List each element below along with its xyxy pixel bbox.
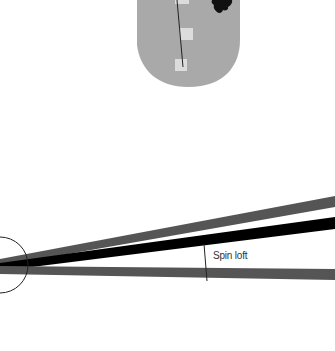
spin-loft-diagram	[0, 0, 335, 351]
fairway-shape	[137, 0, 240, 87]
marker-middle	[180, 28, 193, 40]
marker-bottom	[175, 59, 187, 71]
spin-loft-label: Spin loft	[213, 250, 247, 261]
club-path-line	[0, 217, 335, 271]
attack-angle-line	[0, 266, 335, 280]
